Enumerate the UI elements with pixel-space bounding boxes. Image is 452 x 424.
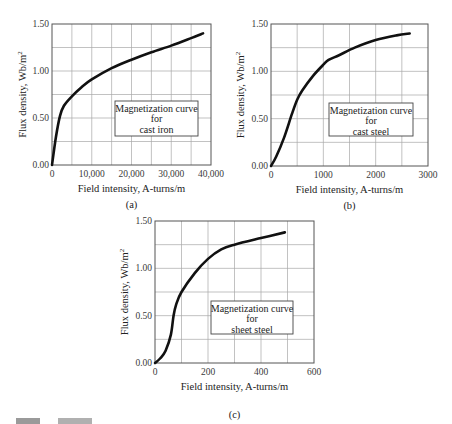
y-tick-label: 1.00 [251, 66, 268, 76]
y-tick-label: 0.50 [32, 113, 49, 123]
caption-fragment [58, 418, 92, 424]
x-axis-label: Field intensity, A-turns/m [181, 381, 289, 392]
chart-caption: (c) [229, 409, 241, 421]
caption-fragment [16, 418, 40, 424]
magnetization-curve [271, 33, 410, 166]
y-tick-label: 1.50 [32, 19, 49, 29]
x-tick-label: 20,000 [118, 169, 144, 179]
legend-line: Magnetization curve [115, 103, 198, 114]
magnetization-curve [52, 33, 203, 165]
x-tick-label: 2000 [366, 170, 385, 180]
legend-line: cast iron [139, 124, 173, 135]
y-tick-label: 0.50 [135, 311, 152, 321]
x-tick-label: 0 [50, 169, 55, 179]
y-axis-label: Flux density, Wb/m2 [118, 248, 130, 335]
gridlines [271, 24, 428, 166]
chart-caption: (a) [126, 199, 138, 211]
legend-box: Magnetization curveforcast iron [115, 101, 198, 136]
x-axis-label: Field intensity, A-turns/m [296, 184, 404, 195]
legend-line: Magnetization curve [211, 303, 294, 314]
legend-line: Magnetization curve [330, 105, 413, 116]
chart-cast-iron: 010,00020,00030,00040,0000.000.501.001.5… [16, 19, 224, 211]
legend-line: for [246, 313, 258, 324]
x-tick-label: 3000 [419, 170, 438, 180]
x-tick-label: 0 [153, 367, 158, 377]
x-tick-label: 40,000 [198, 169, 224, 179]
x-tick-label: 600 [307, 367, 322, 377]
legend-box: Magnetization curveforsheet steel [211, 301, 294, 335]
x-tick-label: 0 [269, 170, 274, 180]
chart-cast-steel: 01000200030000.000.501.001.50Field inten… [234, 19, 438, 212]
x-tick-label: 200 [201, 367, 216, 377]
y-tick-label: 1.00 [135, 263, 152, 273]
y-tick-label: 0.00 [251, 161, 268, 171]
x-tick-label: 30,000 [158, 169, 184, 179]
chart-sheet-steel: 02004006000.000.501.001.50Field intensit… [118, 216, 321, 421]
magnetization-curve [155, 232, 285, 363]
y-axis-label: Flux density, Wb/m2 [234, 51, 246, 138]
y-tick-label: 0.00 [135, 358, 152, 368]
y-tick-label: 0.00 [32, 160, 49, 170]
x-tick-label: 10,000 [79, 169, 105, 179]
y-tick-label: 1.50 [135, 216, 152, 226]
x-tick-label: 1000 [314, 170, 333, 180]
legend-box: Magnetization curveforcast steel [329, 103, 413, 137]
y-tick-label: 0.50 [251, 114, 268, 124]
legend-line: cast steel [353, 126, 390, 137]
x-tick-label: 400 [254, 367, 269, 377]
x-axis-label: Field intensity, A-turns/m [78, 183, 186, 194]
chart-caption: (b) [343, 200, 356, 212]
y-tick-label: 1.50 [251, 19, 268, 29]
legend-line: for [365, 115, 377, 126]
legend-line: sheet steel [231, 324, 273, 335]
figure-canvas: 010,00020,00030,00040,0000.000.501.001.5… [0, 0, 452, 424]
y-axis-label: Flux density, Wb/m2 [16, 51, 28, 138]
y-tick-label: 1.00 [32, 66, 49, 76]
gridlines [52, 24, 211, 165]
gridlines [155, 221, 314, 363]
legend-line: for [151, 113, 163, 124]
